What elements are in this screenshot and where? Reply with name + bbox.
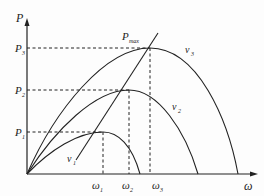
omega1-label-sub: 1 <box>100 187 103 193</box>
p2-label-sub: 2 <box>22 92 25 98</box>
v1-label-main: v <box>67 153 72 164</box>
pmax-label-main: P <box>121 30 129 42</box>
v3-label-sub: 3 <box>190 51 194 57</box>
omega1-label-main: ω <box>92 179 100 191</box>
v2-label-sub: 2 <box>178 108 181 114</box>
omega3-label-sub: 3 <box>159 187 163 193</box>
p1-label-main: P <box>14 126 22 138</box>
p3-label-sub: 3 <box>21 50 25 56</box>
y-axis-arrow-icon <box>25 18 30 26</box>
diagram-svg: P ω P 3 P 2 P 1 ω 1 ω 2 ω 3 v 1 v 2 v 3 … <box>0 0 264 196</box>
v1-label-sub: 1 <box>73 160 76 166</box>
curve-v1 <box>27 132 140 174</box>
pmax-label-sub: max <box>129 38 139 44</box>
x-axis-arrow-icon <box>250 172 258 177</box>
p1-label-sub: 1 <box>22 134 25 140</box>
power-curve-diagram: P ω P 3 P 2 P 1 ω 1 ω 2 ω 3 v 1 v 2 v 3 … <box>0 0 264 196</box>
x-axis-label: ω <box>244 179 252 193</box>
omega2-label-sub: 2 <box>130 187 133 193</box>
pmax-locus-line <box>76 33 158 160</box>
omega3-label-main: ω <box>152 179 160 191</box>
y-axis-label: P <box>15 11 24 25</box>
p3-label-main: P <box>14 42 22 54</box>
p2-label-main: P <box>14 84 22 96</box>
omega2-label-main: ω <box>122 179 130 191</box>
v2-label-main: v <box>172 101 177 112</box>
v3-label-main: v <box>185 44 190 55</box>
